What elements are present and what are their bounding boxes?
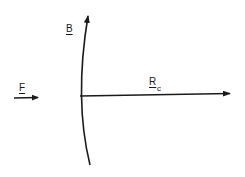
radius-subscript: c: [157, 85, 161, 93]
diagram-canvas: [0, 0, 245, 177]
radius-label: R: [149, 77, 156, 87]
boundary-arc: [81, 16, 90, 165]
force-label: F: [19, 83, 25, 93]
force-arrow: [14, 98, 38, 99]
boundary-label: B: [66, 24, 73, 34]
radius-arrow: [80, 94, 230, 97]
